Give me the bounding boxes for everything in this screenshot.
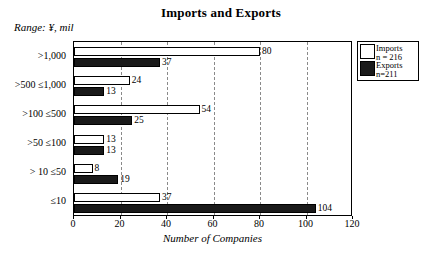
bar-group: 37104	[74, 192, 351, 213]
bar-group: 2413	[74, 75, 351, 96]
range-note: Range: ¥, mil	[14, 21, 74, 33]
bar-imports	[74, 76, 130, 85]
bar-value-label: 8	[95, 164, 100, 173]
bar-group: 5425	[74, 104, 351, 125]
legend-swatch-exports	[360, 61, 375, 76]
bar-value-label: 13	[106, 135, 116, 144]
bar-value-label: 104	[318, 204, 332, 213]
x-axis-ticks: 020406080100120	[0, 218, 424, 232]
bar-group: 1313	[74, 134, 351, 155]
bar-value-label: 37	[162, 58, 172, 67]
legend-swatch-imports	[360, 44, 375, 59]
bar-exports	[74, 116, 132, 125]
y-axis-label: >50 ≤100	[27, 137, 66, 148]
bar-group: 8037	[74, 46, 351, 67]
chart-container: Imports and Exports Range: ¥, mil >1,000…	[0, 0, 424, 265]
x-tick-mark	[73, 216, 74, 219]
legend-label: Importsn = 216	[376, 44, 402, 61]
x-tick-mark	[352, 216, 353, 219]
x-tick-label: 80	[254, 218, 264, 229]
y-axis-label: ≤10	[51, 195, 67, 206]
x-tick-mark	[166, 216, 167, 219]
bar-exports	[74, 146, 104, 155]
bar-imports	[74, 135, 104, 144]
x-tick-mark	[213, 216, 214, 219]
bar-imports	[74, 193, 160, 202]
bar-value-label: 25	[134, 116, 144, 125]
bar-value-label: 54	[202, 105, 212, 114]
x-tick-label: 20	[115, 218, 125, 229]
y-axis-label: > 10 ≤50	[30, 166, 66, 177]
x-tick-mark	[306, 216, 307, 219]
legend: Importsn = 216Exportsn=211	[357, 41, 419, 81]
bars-layer: 803724135425131381937104	[74, 42, 351, 215]
x-tick-mark	[120, 216, 121, 219]
x-tick-label: 0	[71, 218, 76, 229]
bar-value-label: 80	[262, 47, 272, 56]
bar-exports	[74, 58, 160, 67]
plot-area: 803724135425131381937104	[73, 41, 352, 216]
legend-item: Exportsn=211	[360, 61, 416, 78]
bar-value-label: 24	[132, 76, 142, 85]
x-axis-title: Number of Companies	[73, 232, 352, 244]
x-tick-mark	[259, 216, 260, 219]
y-axis-label: >500 ≤1,000	[15, 79, 66, 90]
bar-imports	[74, 105, 200, 114]
x-tick-label: 100	[298, 218, 313, 229]
x-tick-label: 60	[208, 218, 218, 229]
bar-group: 819	[74, 163, 351, 184]
bar-exports	[74, 204, 316, 213]
bar-value-label: 37	[162, 193, 172, 202]
page-title: Imports and Exports	[0, 5, 424, 21]
bar-imports	[74, 47, 260, 56]
legend-series-count: n=211	[376, 70, 402, 79]
y-axis-label: >100 ≤500	[22, 108, 66, 119]
bar-value-label: 19	[120, 175, 130, 184]
bar-exports	[74, 87, 104, 96]
x-tick-label: 40	[161, 218, 171, 229]
x-tick-label: 120	[345, 218, 360, 229]
legend-label: Exportsn=211	[376, 61, 402, 78]
legend-item: Importsn = 216	[360, 44, 416, 61]
bar-exports	[74, 175, 118, 184]
y-axis-labels: >1,000>500 ≤1,000>100 ≤500>50 ≤100> 10 ≤…	[0, 41, 70, 216]
bar-value-label: 13	[106, 146, 116, 155]
bar-imports	[74, 164, 93, 173]
y-axis-label: >1,000	[38, 50, 66, 61]
bar-value-label: 13	[106, 87, 116, 96]
